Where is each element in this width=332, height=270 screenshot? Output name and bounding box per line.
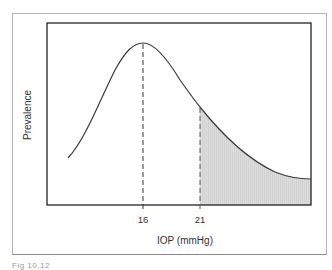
shaded-tail-area (200, 107, 311, 205)
chart-plot (0, 0, 332, 270)
figure-caption: Fig 10.12 (12, 261, 50, 270)
y-axis-label: Prevalence (22, 90, 33, 140)
distribution-curve (68, 43, 311, 179)
x-axis-label: IOP (mmHg) (157, 235, 213, 246)
x-tick-16: 16 (138, 214, 149, 225)
x-tick-21: 21 (195, 214, 206, 225)
